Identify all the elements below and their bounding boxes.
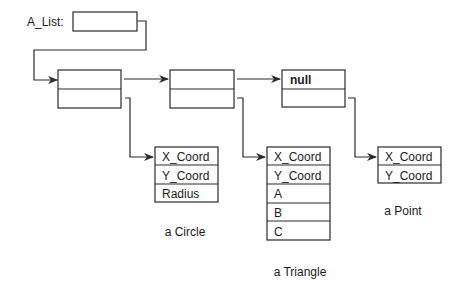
circle-record: X_Coord Y_Coord Radius a Circle	[155, 147, 218, 239]
circle-caption: a Circle	[165, 225, 206, 239]
triangle-field-a: A	[274, 187, 282, 201]
triangle-caption: a Triangle	[274, 265, 327, 279]
list-head-box	[73, 12, 137, 31]
linked-list-diagram: A_List: null X_Coord Y_Coord Radius a Ci…	[0, 0, 467, 298]
triangle-field-c: C	[274, 225, 283, 239]
point-record: X_Coord Y_Coord a Point	[378, 147, 441, 218]
circle-field-x: X_Coord	[162, 150, 209, 164]
node-3-data-arrow	[348, 98, 376, 157]
circle-field-y: Y_Coord	[162, 169, 209, 183]
point-field-x: X_Coord	[385, 150, 432, 164]
list-node-1	[58, 70, 121, 108]
point-caption: a Point	[384, 204, 422, 218]
node-2-data-arrow	[237, 98, 265, 157]
node-1-data-arrow	[125, 98, 153, 157]
triangle-field-y: Y_Coord	[274, 169, 321, 183]
node-3-null-label: null	[290, 73, 311, 87]
list-node-3: null	[282, 70, 345, 107]
circle-field-radius: Radius	[162, 187, 199, 201]
list-node-2	[170, 70, 234, 108]
point-field-y: Y_Coord	[385, 169, 432, 183]
list-label: A_List:	[27, 15, 64, 29]
triangle-record: X_Coord Y_Coord A B C a Triangle	[267, 147, 330, 279]
triangle-field-b: B	[274, 206, 282, 220]
triangle-field-x: X_Coord	[274, 150, 321, 164]
